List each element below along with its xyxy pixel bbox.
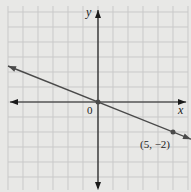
series-arrow-right bbox=[182, 133, 191, 139]
data-point-label: (5, −2) bbox=[140, 138, 170, 151]
origin-label: 0 bbox=[87, 104, 93, 116]
x-axis-label: x bbox=[177, 103, 184, 117]
y-axis-label: y bbox=[85, 5, 92, 19]
y-axis-arrow-up bbox=[95, 10, 101, 18]
coordinate-plane: (5, −2) x y 0 bbox=[0, 0, 191, 192]
x-axis-arrow-left bbox=[10, 99, 18, 105]
y-axis-arrow-down bbox=[95, 182, 101, 190]
data-point bbox=[171, 130, 176, 135]
series-arrow-left bbox=[8, 66, 17, 72]
points: (5, −2) bbox=[96, 100, 176, 152]
data-point bbox=[96, 100, 101, 105]
